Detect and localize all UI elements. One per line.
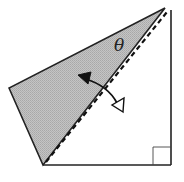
angle-label: θ bbox=[114, 35, 124, 55]
arrow-head-open-icon bbox=[112, 98, 124, 112]
fold-diagram: θ bbox=[0, 0, 184, 182]
right-angle-marker bbox=[153, 147, 171, 165]
folded-flap bbox=[9, 8, 165, 165]
